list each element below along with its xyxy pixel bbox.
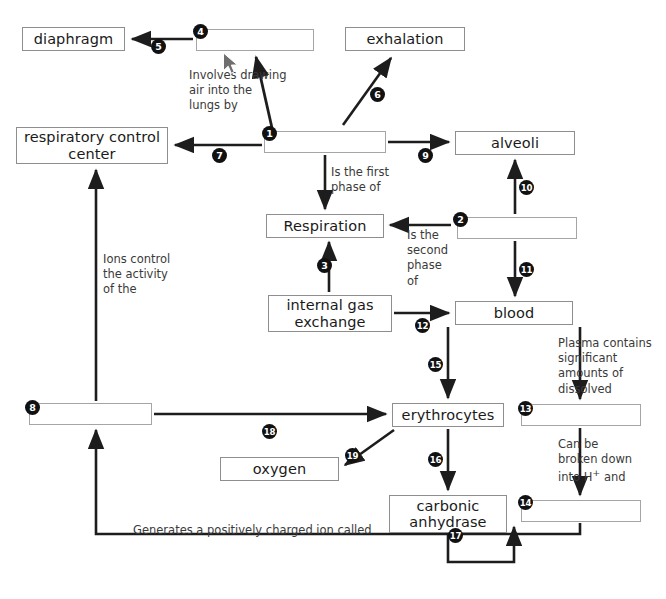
phrase-involves-drawing-air: Involves drawing air into the lungs by <box>189 68 287 114</box>
bullet-14: 14 <box>518 495 533 510</box>
bullet-18: 18 <box>262 424 277 439</box>
bullet-6: 6 <box>370 87 385 102</box>
bullet-4: 4 <box>193 24 208 39</box>
bullet-15: 15 <box>428 357 443 372</box>
phrase-is-the-first-phase-of: Is the first phase of <box>331 165 389 195</box>
bullet-8: 8 <box>25 400 40 415</box>
bullet-1: 1 <box>262 126 277 141</box>
box-blank-4[interactable] <box>196 29 314 51</box>
bullet-13: 13 <box>518 401 533 416</box>
bullet-17: 17 <box>448 528 463 543</box>
box-blank-2[interactable] <box>457 217 577 239</box>
bullet-5: 5 <box>151 39 166 54</box>
box-carbonic-anhydrase[interactable]: carbonic anhydrase <box>389 495 507 533</box>
box-blood[interactable]: blood <box>455 301 573 325</box>
bullet-10: 10 <box>519 180 534 195</box>
bullet-19: 19 <box>345 448 360 463</box>
bullet-16: 16 <box>428 452 443 467</box>
box-alveoli[interactable]: alveoli <box>455 131 575 155</box>
box-blank-1[interactable] <box>264 131 386 153</box>
bullet-11: 11 <box>519 262 534 277</box>
box-respiratory-control-center[interactable]: respiratory control center <box>16 127 168 164</box>
link-generates <box>96 430 580 534</box>
concept-map-canvas: diaphragm exhalation respiratory control… <box>0 0 666 599</box>
box-blank-8[interactable] <box>29 403 152 425</box>
box-blank-13[interactable] <box>521 404 641 426</box>
bullet-7: 7 <box>212 148 227 163</box>
bullet-3: 3 <box>317 258 332 273</box>
box-respiration[interactable]: Respiration <box>266 214 384 238</box>
bullet-2: 2 <box>453 212 468 227</box>
box-exhalation[interactable]: exhalation <box>345 27 465 51</box>
phrase-can-be-broken-down: Can bebroken downinto H+ and <box>558 437 632 485</box>
box-erythrocytes[interactable]: erythrocytes <box>392 403 504 427</box>
phrase-ions-control-activity: Ions control the activity of the <box>103 252 170 298</box>
box-blank-14[interactable] <box>521 500 641 522</box>
bullet-12: 12 <box>415 318 430 333</box>
box-diaphragm[interactable]: diaphragm <box>22 27 125 51</box>
bullet-9: 9 <box>418 148 433 163</box>
box-oxygen[interactable]: oxygen <box>220 457 339 481</box>
phrase-is-the-second-phase-of: Is the second phase of <box>407 228 448 289</box>
box-internal-gas-exchange[interactable]: internal gas exchange <box>268 295 392 332</box>
phrase-generates-positively-charged-ion: Generates a positively charged ion calle… <box>133 523 372 538</box>
phrase-plasma-contains-dissolved: Plasma contains significant amounts of d… <box>558 336 652 397</box>
